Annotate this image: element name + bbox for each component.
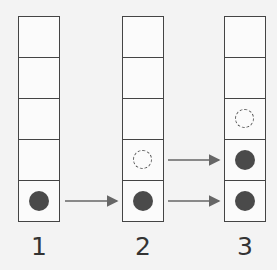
arrows-layer [0,0,277,270]
